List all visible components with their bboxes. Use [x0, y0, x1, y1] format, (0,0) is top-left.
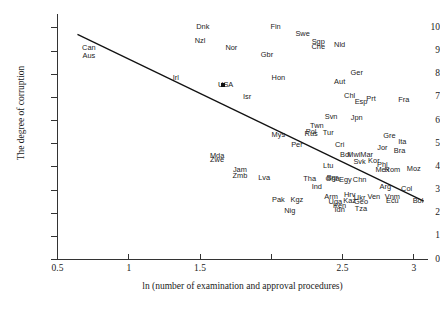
point-label-svk-39: Svk — [353, 158, 365, 165]
x-tick-label-1: 1 — [109, 264, 149, 274]
x-axis-title: ln (number of examination and approval p… — [57, 281, 428, 291]
point-label-fin-4: Fin — [270, 23, 280, 30]
y-tick-label-10: 10 — [392, 23, 440, 33]
point-label-gre-28: Gre — [383, 133, 395, 140]
point-label-isr-16: Isr — [243, 93, 251, 100]
point-label-jor-32: Jor — [377, 144, 387, 151]
point-label-swe-5: Swe — [295, 31, 309, 38]
point-label-ven-62: Ven — [367, 194, 380, 201]
point-label-tur-26: Tur — [323, 129, 334, 136]
y-tick-1 — [51, 236, 57, 237]
point-label-fra-20: Fra — [398, 96, 409, 103]
point-label-zmb-44: Zmb — [232, 172, 247, 179]
point-label-ltu-42: Ltu — [323, 162, 333, 169]
point-label-nld-10: Nld — [334, 41, 345, 48]
x-tick-0.5 — [57, 254, 58, 260]
point-label-rus-25: Rus — [305, 130, 318, 137]
y-tick-10 — [51, 27, 57, 28]
x-tick-3 — [413, 254, 414, 260]
y-tick-label-9: 9 — [392, 46, 440, 56]
point-label-gha-48: Gha — [326, 175, 340, 182]
point-label-ind-54: Ind — [312, 183, 322, 190]
point-label-prt-19: Prt — [366, 96, 375, 103]
x-tick-label-2.5: 2.5 — [323, 264, 363, 274]
y-tick-4 — [51, 166, 57, 167]
point-label-nor-6: Nor — [225, 45, 237, 52]
point-label-dnk-2: Dnk — [196, 24, 209, 31]
x-tick-label-1.5: 1.5 — [180, 264, 220, 274]
point-label-moz-53: Moz — [407, 165, 421, 172]
point-label-ecu-64: Ecu — [386, 197, 399, 204]
point-label-hon-13: Hon — [272, 74, 286, 81]
point-label-aus-1: Aus — [82, 52, 95, 59]
y-tick-label-1: 1 — [392, 231, 440, 241]
point-label-bol-38: Bol — [340, 151, 351, 158]
point-label-ger-14: Ger — [351, 69, 363, 76]
x-tick-2 — [271, 254, 272, 260]
y-tick-9 — [51, 51, 57, 52]
point-label-chn-50: Chn — [353, 177, 367, 184]
point-label-arg-55: Arg — [379, 184, 391, 191]
x-tick-1.5 — [200, 254, 201, 260]
y-tick-3 — [51, 190, 57, 191]
point-label-per-30: Per — [291, 141, 303, 148]
x-tick-label-3: 3 — [394, 264, 434, 274]
point-label-nzl-3: Nzl — [195, 37, 206, 44]
y-tick-8 — [51, 74, 57, 75]
point-label-ita-29: Ita — [398, 138, 406, 145]
point-label-svn-21: Svn — [325, 113, 338, 120]
point-label-pak-57: Pak — [272, 197, 285, 204]
y-tick-label-6: 6 — [392, 116, 440, 126]
point-label-che-9: Che — [311, 43, 325, 50]
point-label-lva-45: Lva — [258, 174, 270, 181]
point-label-col-56: Col — [401, 185, 412, 192]
plot-area: 012345678910 0.511.52.53 CanAusDnkNzlFin… — [0, 0, 440, 309]
y-tick-7 — [51, 97, 57, 98]
x-tick-2.5 — [342, 254, 343, 260]
point-label-bra-33: Bra — [394, 147, 406, 154]
point-label-kgz-58: Kgz — [291, 197, 304, 204]
point-label-mys-27: Mys — [272, 131, 286, 138]
point-label-chl-17: Chl — [344, 93, 355, 100]
y-tick-label-8: 8 — [392, 69, 440, 79]
y-axis-line — [57, 14, 58, 260]
y-tick-label-2: 2 — [392, 208, 440, 218]
point-label-egy-49: Egy — [339, 176, 352, 183]
y-tick-5 — [51, 143, 57, 144]
x-tick-1 — [128, 254, 129, 260]
scatter-chart: 012345678910 0.511.52.53 CanAusDnkNzlFin… — [0, 0, 440, 309]
y-tick-6 — [51, 120, 57, 121]
point-label-nig-72: Nig — [284, 208, 295, 215]
point-label-aut-15: Aut — [334, 79, 345, 86]
point-label-can-0: Can — [82, 44, 96, 51]
point-label-tza-71: Tza — [355, 205, 367, 212]
point-label-zwe-35: Zwe — [210, 156, 224, 163]
y-tick-label-0: 0 — [392, 255, 440, 265]
point-label-cri-31: Cri — [335, 141, 344, 148]
point-label-gbr-7: Gbr — [261, 51, 273, 58]
x-tick-label-0.5: 0.5 — [38, 264, 78, 274]
point-label-jpn-22: Jpn — [351, 114, 363, 121]
point-label-bol-65: Bol — [413, 197, 424, 204]
y-tick-2 — [51, 213, 57, 214]
point-marker-usa — [221, 83, 225, 87]
y-axis-title: The degree of corruption — [16, 38, 26, 188]
point-label-irl-11: Irl — [173, 74, 179, 81]
point-label-idn-70: Idn — [335, 207, 345, 214]
point-label-rom-52: Rom — [385, 166, 401, 173]
x-axis-line — [57, 259, 428, 260]
